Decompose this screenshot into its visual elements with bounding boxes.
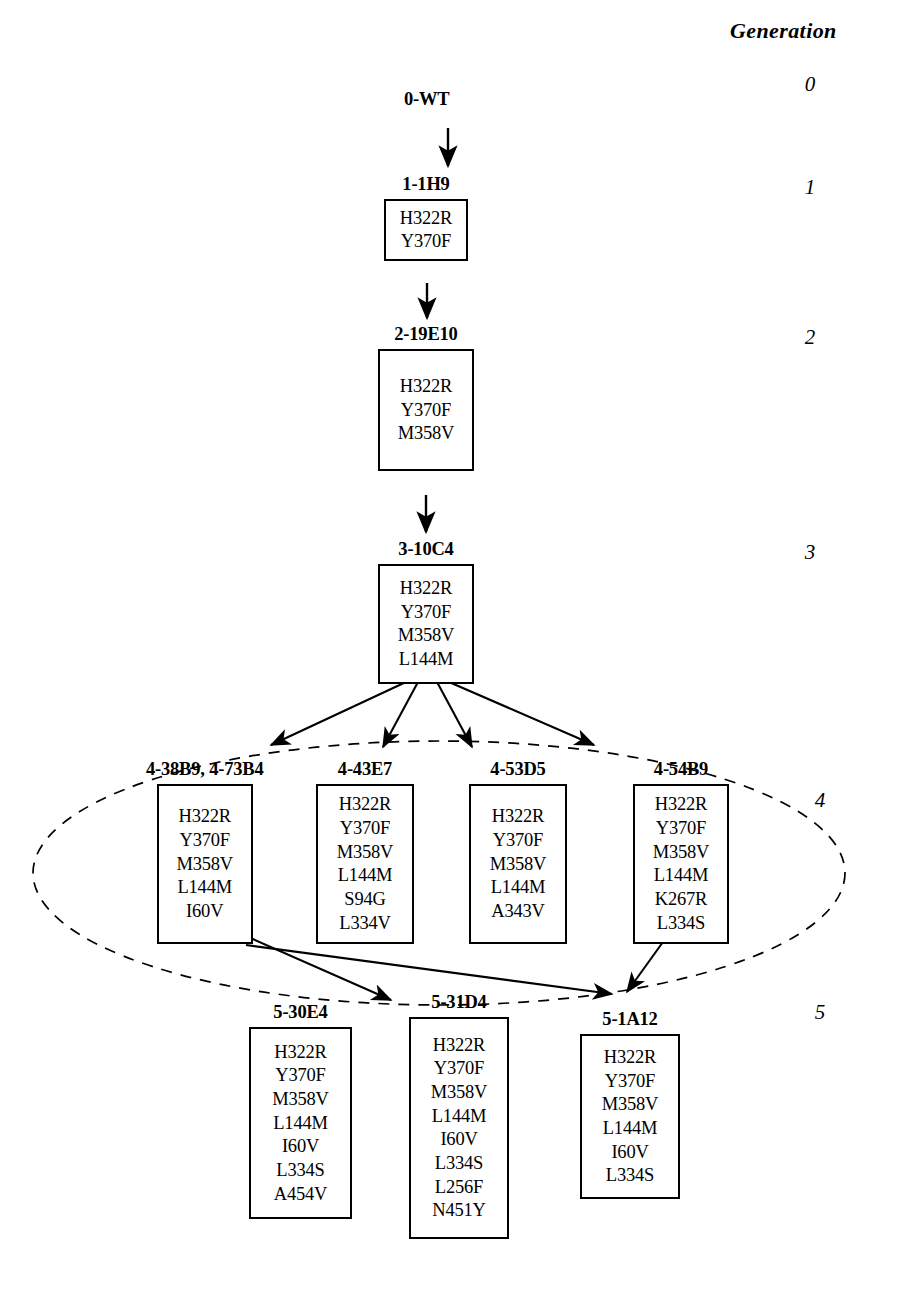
node-label: 4-38B9, 4-73B4 xyxy=(146,760,263,779)
mutation-entry: H322R xyxy=(655,793,707,817)
mutation-entry: L144M xyxy=(399,648,454,672)
edge-38b9-to-31d4 xyxy=(246,936,391,1000)
mutation-entry: M358V xyxy=(602,1093,659,1117)
mutation-entry: Y370F xyxy=(401,601,451,625)
mutation-entry: L144M xyxy=(177,876,232,900)
node-2-19e10[interactable]: 2-19E10H322RY370FM358V xyxy=(378,325,474,471)
mutation-entry: H322R xyxy=(400,577,452,601)
generation-column-header: Generation xyxy=(730,18,837,44)
edge-38b9-to-1a12 xyxy=(246,945,612,994)
mutation-entry: Y370F xyxy=(493,829,543,853)
mutation-entry: L144M xyxy=(273,1112,328,1136)
edge-10c4-to-54b9 xyxy=(449,682,594,745)
mutation-entry: M358V xyxy=(431,1081,488,1105)
generation-number-1: 1 xyxy=(795,175,825,200)
node-label: 4-54B9 xyxy=(654,760,708,779)
mutation-entry: L334S xyxy=(276,1159,324,1183)
mutation-entry: N451Y xyxy=(432,1199,485,1223)
mutation-box: H322RY370FM358VL144MK267RL334S xyxy=(633,784,729,944)
mutation-entry: I60V xyxy=(282,1135,319,1159)
generation-number-3: 3 xyxy=(795,540,825,565)
mutation-entry: H322R xyxy=(400,375,452,399)
node-4-43e7[interactable]: 4-43E7H322RY370FM358VL144MS94GL334V xyxy=(316,760,414,944)
node-label: 3-10C4 xyxy=(398,540,453,559)
node-5-30e4[interactable]: 5-30E4H322RY370FM358VL144MI60VL334SA454V xyxy=(249,1003,352,1219)
node-label: 0-WT xyxy=(404,90,449,109)
mutation-entry: I60V xyxy=(440,1128,477,1152)
mutation-box: H322RY370FM358VL144M xyxy=(378,564,474,684)
mutation-entry: H322R xyxy=(178,805,230,829)
node-4-38b9[interactable]: 4-38B9, 4-73B4H322RY370FM358VL144MI60V xyxy=(146,760,263,944)
mutation-box: H322RY370FM358V xyxy=(378,349,474,471)
mutation-entry: M358V xyxy=(490,853,547,877)
mutation-box: H322RY370FM358VL144MI60V xyxy=(157,784,253,944)
mutation-entry: H322R xyxy=(604,1046,656,1070)
mutation-entry: L144M xyxy=(603,1117,658,1141)
generation-number-2: 2 xyxy=(795,325,825,350)
mutation-entry: K267R xyxy=(655,888,707,912)
node-label: 1-1H9 xyxy=(402,175,449,194)
node-4-54b9[interactable]: 4-54B9H322RY370FM358VL144MK267RL334S xyxy=(633,760,729,944)
mutation-entry: L334S xyxy=(606,1164,654,1188)
generation-number-4: 4 xyxy=(805,788,835,813)
mutation-entry: H322R xyxy=(339,793,391,817)
mutation-entry: M358V xyxy=(337,841,394,865)
node-label: 5-31D4 xyxy=(431,993,486,1012)
mutation-box: H322RY370FM358VL144MA343V xyxy=(469,784,567,944)
mutation-entry: Y370F xyxy=(401,230,451,254)
edge-10c4-to-53d5 xyxy=(437,682,472,747)
node-5-31d4[interactable]: 5-31D4H322RY370FM358VL144MI60VL334SL256F… xyxy=(409,993,509,1239)
mutation-entry: L334V xyxy=(339,912,390,936)
mutation-entry: Y370F xyxy=(401,399,451,423)
mutation-entry: L144M xyxy=(338,864,393,888)
mutation-entry: H322R xyxy=(400,207,452,231)
mutation-entry: Y370F xyxy=(434,1057,484,1081)
mutation-box: H322RY370F xyxy=(384,199,468,261)
mutation-entry: A343V xyxy=(491,900,544,924)
node-4-53d5[interactable]: 4-53D5H322RY370FM358VL144MA343V xyxy=(469,760,567,944)
mutation-box: H322RY370FM358VL144MI60VL334SA454V xyxy=(249,1027,352,1219)
mutation-entry: I60V xyxy=(186,900,223,924)
mutation-entry: Y370F xyxy=(656,817,706,841)
mutation-entry: H322R xyxy=(492,805,544,829)
mutation-box: H322RY370FM358VL144MI60VL334S xyxy=(580,1034,680,1199)
mutation-entry: I60V xyxy=(611,1141,648,1165)
edge-10c4-to-38b9 xyxy=(271,682,406,745)
mutation-box: H322RY370FM358VL144MS94GL334V xyxy=(316,784,414,944)
mutation-entry: M358V xyxy=(398,624,455,648)
mutation-entry: M358V xyxy=(653,841,710,865)
edge-10c4-to-43e7 xyxy=(383,682,418,747)
node-label: 2-19E10 xyxy=(394,325,457,344)
mutation-entry: H322R xyxy=(274,1041,326,1065)
node-label: 5-1A12 xyxy=(602,1010,657,1029)
node-5-1a12[interactable]: 5-1A12H322RY370FM358VL144MI60VL334S xyxy=(580,1010,680,1199)
node-label: 5-30E4 xyxy=(273,1003,327,1022)
lineage-diagram-page: Generation 012345 0-WT1-1H9H322RY370F2-1… xyxy=(0,0,898,1307)
mutation-entry: S94G xyxy=(344,888,385,912)
node-0-wt[interactable]: 0-WT xyxy=(404,90,449,114)
mutation-entry: Y370F xyxy=(340,817,390,841)
node-1-1h9[interactable]: 1-1H9H322RY370F xyxy=(384,175,468,261)
mutation-entry: M358V xyxy=(398,422,455,446)
generation-number-0: 0 xyxy=(795,72,825,97)
mutation-entry: Y370F xyxy=(275,1064,325,1088)
mutation-entry: M358V xyxy=(272,1088,329,1112)
mutation-entry: L334S xyxy=(657,912,705,936)
mutation-entry: A454V xyxy=(274,1183,327,1207)
mutation-entry: L334S xyxy=(435,1152,483,1176)
node-label: 4-53D5 xyxy=(490,760,545,779)
mutation-box: H322RY370FM358VL144MI60VL334SL256FN451Y xyxy=(409,1017,509,1239)
mutation-entry: M358V xyxy=(176,853,233,877)
mutation-entry: L144M xyxy=(654,864,709,888)
generation-number-5: 5 xyxy=(805,1000,835,1025)
mutation-entry: Y370F xyxy=(180,829,230,853)
mutation-entry: H322R xyxy=(433,1034,485,1058)
mutation-entry: L256F xyxy=(435,1176,483,1200)
node-label: 4-43E7 xyxy=(338,760,392,779)
mutation-entry: L144M xyxy=(432,1105,487,1129)
node-3-10c4[interactable]: 3-10C4H322RY370FM358VL144M xyxy=(378,540,474,684)
mutation-entry: L144M xyxy=(491,876,546,900)
mutation-entry: Y370F xyxy=(605,1070,655,1094)
